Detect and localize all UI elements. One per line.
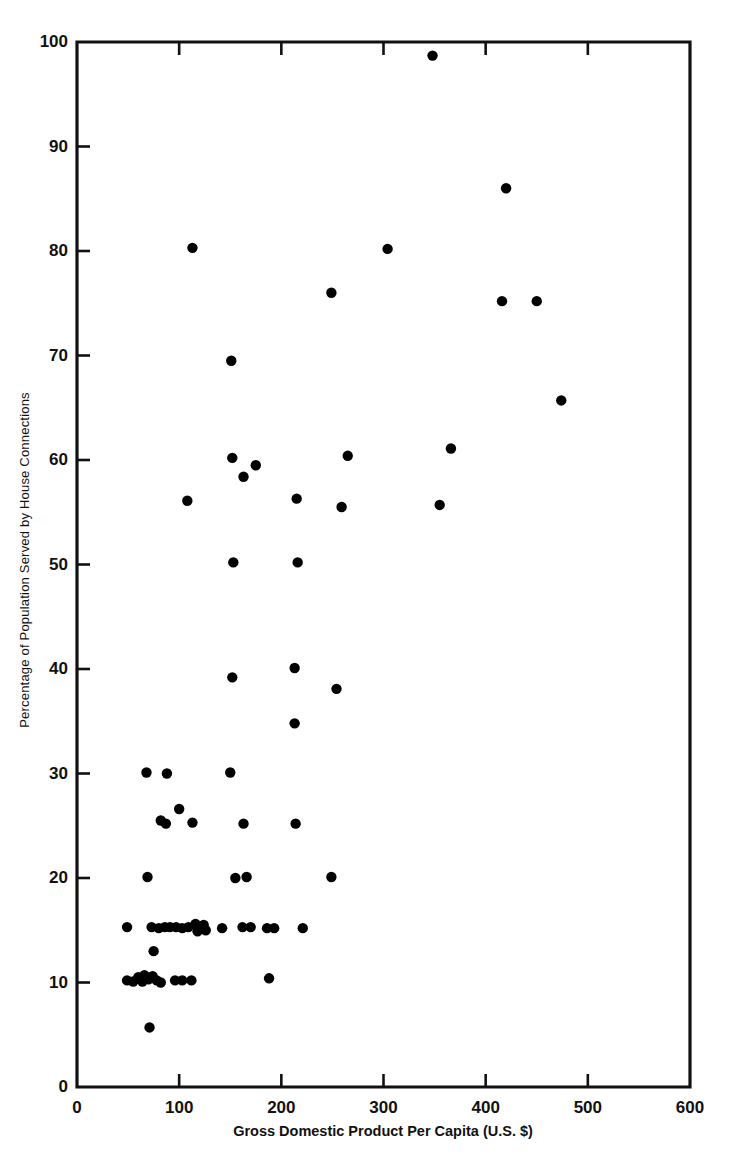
data-point [241, 872, 251, 882]
data-point [182, 496, 192, 506]
data-point [238, 472, 248, 482]
data-point [162, 768, 172, 778]
data-point [289, 663, 299, 673]
data-point [446, 443, 456, 453]
x-tick-label: 0 [72, 1098, 81, 1117]
y-tick-label: 90 [49, 137, 68, 156]
data-point [289, 718, 299, 728]
y-tick-label: 30 [49, 764, 68, 783]
data-point [144, 1022, 154, 1032]
data-point [251, 460, 261, 470]
data-point [187, 243, 197, 253]
data-point [331, 684, 341, 694]
y-tick-label: 60 [49, 450, 68, 469]
data-point [501, 183, 511, 193]
data-point [186, 975, 196, 985]
x-tick-label: 400 [471, 1098, 499, 1117]
data-point [336, 502, 346, 512]
data-point [174, 804, 184, 814]
data-point [532, 296, 542, 306]
data-point [245, 922, 255, 932]
x-tick-label: 500 [574, 1098, 602, 1117]
y-tick-label: 40 [49, 659, 68, 678]
data-point [382, 244, 392, 254]
data-point [291, 493, 301, 503]
x-axis-label: Gross Domestic Product Per Capita (U.S. … [233, 1123, 533, 1139]
data-point [161, 818, 171, 828]
data-point [201, 925, 211, 935]
data-point [269, 923, 279, 933]
x-tick-label: 600 [676, 1098, 704, 1117]
x-tick-label: 200 [267, 1098, 295, 1117]
data-point [122, 922, 132, 932]
y-tick-label: 20 [49, 868, 68, 887]
data-point [230, 873, 240, 883]
data-point [264, 973, 274, 983]
data-point [326, 872, 336, 882]
data-point [556, 395, 566, 405]
x-tick-label: 300 [369, 1098, 397, 1117]
data-point [187, 817, 197, 827]
plot-canvas: 0102030405060708090100 01002003004005006… [0, 0, 730, 1164]
scatter-plot-figure: 0102030405060708090100 01002003004005006… [0, 0, 730, 1164]
x-axis-ticks: 0100200300400500600 [72, 42, 704, 1117]
y-axis-ticks: 0102030405060708090100 [40, 32, 90, 1096]
data-point [497, 296, 507, 306]
data-point [290, 818, 300, 828]
y-tick-label: 0 [59, 1077, 68, 1096]
y-tick-label: 50 [49, 555, 68, 574]
data-points-layer [122, 50, 567, 1032]
data-point [227, 672, 237, 682]
data-point [228, 557, 238, 567]
y-tick-label: 10 [49, 973, 68, 992]
data-point [326, 288, 336, 298]
data-point [298, 923, 308, 933]
data-point [226, 356, 236, 366]
data-point [292, 557, 302, 567]
x-tick-label: 100 [165, 1098, 193, 1117]
y-axis-label: Percentage of Population Served by House… [17, 392, 32, 728]
data-point [434, 500, 444, 510]
data-point [156, 977, 166, 987]
y-tick-label: 80 [49, 241, 68, 260]
data-point [427, 50, 437, 60]
data-point [141, 767, 151, 777]
data-point [225, 767, 235, 777]
data-point [148, 946, 158, 956]
data-point [343, 451, 353, 461]
y-tick-label: 70 [49, 346, 68, 365]
data-point [177, 975, 187, 985]
data-point [227, 453, 237, 463]
y-tick-label: 100 [40, 32, 68, 51]
data-point [238, 818, 248, 828]
data-point [217, 923, 227, 933]
data-point [142, 872, 152, 882]
